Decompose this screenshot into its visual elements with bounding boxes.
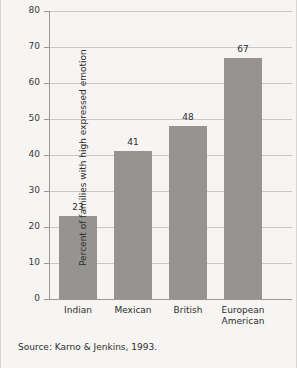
y-tick-30: [44, 191, 49, 192]
bar-chart-figure: 01020304050607080 23414867 IndianMexican…: [0, 0, 297, 368]
x-label-line: European: [210, 305, 276, 316]
bar-value-british: 48: [169, 113, 207, 122]
x-label-european-american: EuropeanAmerican: [210, 305, 276, 327]
bar-value-mexican: 41: [114, 138, 152, 147]
y-tick-label-0: 0: [18, 294, 40, 303]
bar-value-indian: 23: [59, 203, 97, 212]
bar-value-european-american: 67: [224, 45, 262, 54]
y-tick-70: [44, 47, 49, 48]
y-tick-label-70: 70: [18, 42, 40, 51]
y-tick-10: [44, 263, 49, 264]
y-tick-label-30: 30: [18, 186, 40, 195]
y-tick-label-20: 20: [18, 222, 40, 231]
x-axis-line: [49, 299, 292, 300]
y-tick-0: [44, 299, 49, 300]
source-note: Source: Karno & Jenkins, 1993.: [18, 342, 157, 352]
bar-british: [169, 126, 207, 299]
gridline-80: [49, 11, 292, 12]
y-tick-label-10: 10: [18, 258, 40, 267]
y-tick-20: [44, 227, 49, 228]
y-tick-50: [44, 119, 49, 120]
bar-european-american: [224, 58, 262, 299]
y-tick-60: [44, 83, 49, 84]
y-tick-label-80: 80: [18, 6, 40, 15]
x-label-line: American: [210, 316, 276, 327]
bar-indian: [59, 216, 97, 299]
page-edge-left: [0, 0, 1, 368]
y-tick-label-50: 50: [18, 114, 40, 123]
y-tick-40: [44, 155, 49, 156]
page-edge-right: [296, 0, 297, 368]
y-tick-80: [44, 11, 49, 12]
bar-mexican: [114, 151, 152, 299]
plot-area: [49, 11, 292, 299]
y-tick-label-60: 60: [18, 78, 40, 87]
y-tick-label-40: 40: [18, 150, 40, 159]
y-axis-line: [49, 11, 50, 300]
